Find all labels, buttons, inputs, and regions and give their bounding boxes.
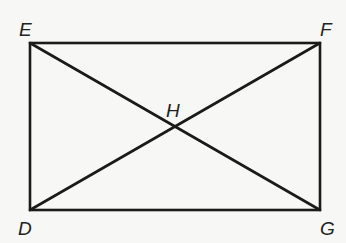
label-g: G bbox=[320, 218, 335, 239]
label-h: H bbox=[166, 100, 180, 121]
label-d: D bbox=[18, 218, 32, 239]
label-e: E bbox=[19, 19, 32, 40]
rectangle-diagram: E F H D G bbox=[0, 0, 346, 243]
label-f: F bbox=[320, 19, 333, 40]
